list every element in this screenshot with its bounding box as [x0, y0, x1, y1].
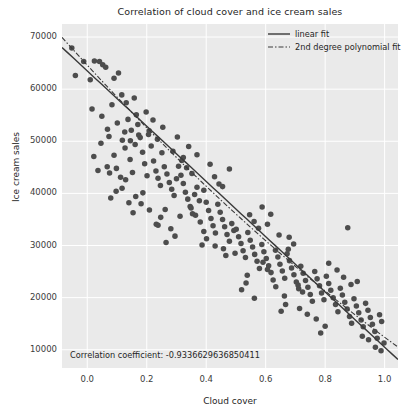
data-point — [212, 243, 218, 249]
data-point — [158, 183, 164, 189]
data-point — [113, 189, 119, 195]
data-point — [378, 348, 384, 354]
data-point — [308, 292, 314, 298]
data-point — [326, 281, 332, 287]
data-point — [92, 58, 98, 64]
data-point — [239, 287, 245, 293]
data-point — [351, 296, 357, 302]
data-point — [162, 164, 168, 170]
data-point — [106, 134, 112, 140]
data-point — [136, 132, 142, 138]
data-point — [354, 303, 360, 309]
data-point — [164, 171, 170, 177]
data-point — [171, 193, 177, 199]
data-point — [355, 279, 361, 285]
data-point — [177, 214, 183, 220]
data-point — [194, 152, 200, 158]
data-point — [197, 198, 203, 204]
data-point — [213, 230, 219, 236]
data-point — [193, 213, 199, 219]
data-point — [169, 186, 175, 192]
data-point — [109, 102, 115, 108]
data-point — [321, 297, 327, 303]
data-point — [310, 299, 316, 305]
data-point — [303, 278, 309, 284]
data-point — [147, 207, 153, 213]
data-point — [300, 289, 306, 295]
data-point — [135, 122, 141, 128]
data-point — [373, 344, 379, 350]
data-point — [250, 244, 256, 250]
data-point — [208, 216, 214, 222]
data-point — [243, 255, 249, 261]
data-point — [201, 229, 207, 235]
data-point — [223, 253, 229, 259]
data-point — [297, 306, 303, 312]
data-point — [126, 200, 132, 206]
data-point — [73, 73, 79, 79]
data-point — [158, 215, 164, 221]
data-point — [178, 172, 184, 178]
data-point — [150, 117, 156, 123]
data-point — [176, 164, 182, 170]
legend-label: 2nd degree polynomial fit — [295, 42, 401, 52]
data-point — [188, 205, 194, 211]
data-point — [186, 144, 192, 150]
data-point — [259, 242, 265, 248]
data-point — [276, 232, 282, 238]
data-point — [277, 262, 283, 268]
data-point — [99, 113, 105, 119]
data-point — [252, 252, 258, 258]
data-point — [198, 219, 204, 225]
data-point — [236, 234, 242, 240]
figure-canvas: Correlation of cloud cover and ice cream… — [0, 0, 408, 415]
data-point — [132, 142, 138, 148]
data-point — [130, 170, 136, 176]
data-point — [244, 272, 250, 278]
data-point — [286, 234, 292, 240]
data-point — [122, 145, 128, 151]
data-point — [98, 141, 104, 147]
data-point — [268, 211, 274, 217]
data-point — [229, 221, 235, 227]
data-point — [118, 174, 124, 180]
data-point — [148, 143, 154, 149]
data-point — [341, 275, 347, 281]
data-point — [224, 232, 230, 238]
data-point — [257, 266, 263, 272]
data-point — [133, 194, 139, 200]
data-point — [104, 164, 110, 170]
data-point — [120, 137, 126, 143]
data-point — [227, 166, 233, 172]
data-point — [220, 184, 226, 190]
data-point — [283, 302, 289, 308]
data-point — [232, 251, 238, 257]
data-point — [261, 249, 267, 255]
data-point — [289, 265, 295, 271]
data-point — [125, 117, 131, 123]
data-point — [105, 127, 111, 133]
data-point — [127, 157, 133, 163]
data-point — [238, 241, 244, 247]
data-point — [168, 226, 174, 232]
data-point — [259, 204, 265, 210]
data-point — [280, 268, 286, 274]
data-point — [360, 333, 366, 339]
data-point — [340, 292, 346, 298]
data-point — [172, 233, 178, 239]
data-point — [194, 184, 200, 190]
data-point — [103, 65, 109, 71]
data-point — [174, 176, 180, 182]
data-point — [140, 149, 146, 155]
data-point — [240, 248, 246, 254]
data-point — [322, 324, 328, 330]
data-point — [312, 269, 318, 275]
data-point — [349, 320, 355, 326]
data-point — [338, 285, 344, 291]
legend-label: linear fit — [295, 29, 330, 39]
data-point — [245, 230, 251, 236]
data-point — [129, 128, 135, 134]
data-point — [291, 241, 297, 247]
data-point — [116, 70, 122, 76]
data-point — [175, 134, 181, 140]
